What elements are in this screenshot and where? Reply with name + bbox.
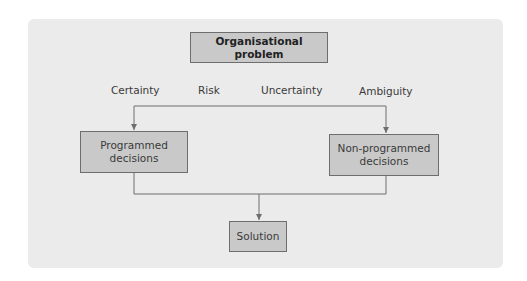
arrow-down-icon <box>131 124 137 130</box>
organisational-problem-box: Organisational problem <box>190 32 328 63</box>
arrow-down-icon <box>256 214 262 220</box>
organisational-problem-label: Organisational problem <box>191 35 327 61</box>
non-programmed-decisions-box: Non-programmed decisions <box>329 134 439 176</box>
condition-uncertainty: Uncertainty <box>261 84 322 96</box>
solution-label: Solution <box>237 230 280 243</box>
condition-risk: Risk <box>198 84 220 96</box>
programmed-line2: decisions <box>110 152 159 165</box>
programmed-decisions-box: Programmed decisions <box>80 131 188 173</box>
condition-certainty: Certainty <box>111 84 160 96</box>
programmed-line1: Programmed <box>100 139 168 152</box>
arrow-down-icon <box>383 127 389 133</box>
non-programmed-line1: Non-programmed <box>338 142 431 155</box>
non-programmed-line2: decisions <box>360 155 409 168</box>
solution-box: Solution <box>229 221 287 252</box>
condition-ambiguity: Ambiguity <box>359 85 413 97</box>
